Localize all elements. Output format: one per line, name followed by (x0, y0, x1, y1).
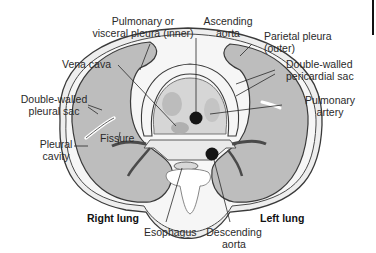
label-line: Pulmonary or (88, 15, 198, 27)
descending-aorta-vessel (206, 148, 219, 161)
label-line: Pulmonary (300, 94, 360, 106)
label-pulmonary-artery: Pulmonary artery (300, 94, 360, 118)
edge-bar (372, 0, 374, 35)
label-esophagus: Esophagus (144, 226, 197, 238)
label-line: pericardial sac (286, 70, 354, 82)
label-line: cavity (36, 150, 76, 162)
label-line: Double-walled (14, 93, 94, 105)
label-line: aorta (204, 238, 264, 250)
label-line: Double-walled (286, 58, 354, 70)
label-line: Parietal pleura (264, 30, 332, 42)
label-line: (outer) (264, 42, 332, 54)
label-left-lung: Left lung (260, 212, 304, 224)
label-line: artery (300, 106, 360, 118)
label-line: Ascending (198, 15, 258, 27)
label-line: Descending (204, 226, 264, 238)
label-line: visceral pleura (inner) (88, 27, 198, 39)
thorax-diagram: Pulmonary or visceral pleura (inner) Asc… (0, 0, 376, 253)
label-line: pleural sac (14, 105, 94, 117)
label-pulmonary-pleura: Pulmonary or visceral pleura (inner) (88, 15, 198, 39)
label-right-lung: Right lung (87, 212, 139, 224)
label-line: aorta (198, 27, 258, 39)
label-ascending-aorta: Ascending aorta (198, 15, 258, 39)
heart-chamber (204, 98, 220, 122)
label-descending-aorta: Descending aorta (204, 226, 264, 250)
label-fissure: Fissure (100, 132, 134, 144)
label-line: Pleural (36, 138, 76, 150)
heart-chamber (162, 92, 182, 116)
label-pleural-sac: Double-walled pleural sac (14, 93, 94, 117)
label-parietal-pleura: Parietal pleura (outer) (264, 30, 332, 54)
ascending-aorta-vessel (190, 112, 203, 125)
label-pericardial-sac: Double-walled pericardial sac (286, 58, 354, 82)
label-pleural-cavity: Pleural cavity (36, 138, 76, 162)
label-vena-cava: Vena cava (62, 58, 111, 70)
